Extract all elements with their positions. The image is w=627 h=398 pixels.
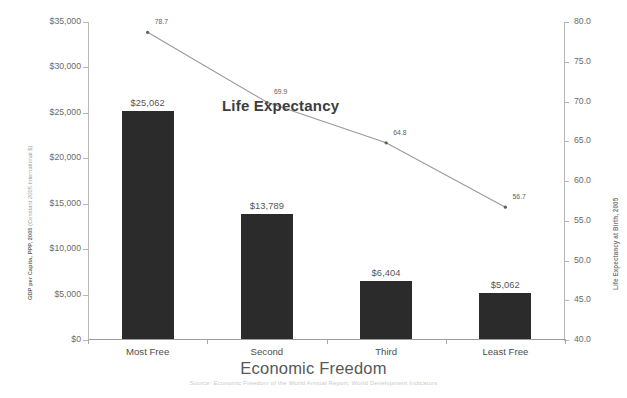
x-axis-category-label: Least Free xyxy=(450,346,560,357)
x-axis-category-label: Most Free xyxy=(93,346,203,357)
y-axis-right-tick-label: 50.0 xyxy=(574,256,591,265)
y-axis-left-tick-label: $35,000 xyxy=(33,17,81,26)
line-marker xyxy=(504,206,507,209)
y-axis-right-tick-label: 80.0 xyxy=(574,17,591,26)
y-axis-left-title: GDP per Capita, PPP, 2005 (Constant 2005… xyxy=(27,146,33,300)
life-expectancy-annotation: Life Expectancy xyxy=(222,97,339,114)
line-series xyxy=(88,22,565,340)
y-axis-right-tick-label: 65.0 xyxy=(574,136,591,145)
y-axis-left-tick-label: $30,000 xyxy=(33,62,81,71)
y-axis-right-tick-label: 70.0 xyxy=(574,97,591,106)
y-axis-right-tick-label: 45.0 xyxy=(574,295,591,304)
y-axis-left-tick-label: $25,000 xyxy=(33,108,81,117)
life-expectancy-line xyxy=(148,32,506,207)
line-marker xyxy=(146,31,149,34)
plot-area: $25,062$13,789$6,404$5,062 Most FreeSeco… xyxy=(88,22,565,340)
line-point-value-label: 56.7 xyxy=(512,193,526,200)
y-axis-left-tick-label: $5,000 xyxy=(33,290,81,299)
y-axis-left-tick-label: $0 xyxy=(33,335,81,344)
y-axis-right-title: Life Expectancy at Birth, 2005 xyxy=(612,198,619,290)
x-axis-category-label: Second xyxy=(212,346,322,357)
line-marker xyxy=(385,141,388,144)
x-axis-tickmark xyxy=(565,339,566,344)
y-axis-right-tick-label: 40.0 xyxy=(574,335,591,344)
y-axis-left-tick-label: $15,000 xyxy=(33,199,81,208)
line-point-value-label: 64.8 xyxy=(393,129,407,136)
y-axis-left-tick-label: $10,000 xyxy=(33,244,81,253)
y-axis-right-tick-label: 60.0 xyxy=(574,176,591,185)
y-axis-left-tick-label: $20,000 xyxy=(33,153,81,162)
y-axis-right-tick-label: 55.0 xyxy=(574,216,591,225)
line-point-value-label: 69.9 xyxy=(274,88,288,95)
figure-caption: Source: Economic Freedom of the World An… xyxy=(0,380,627,386)
x-axis-category-label: Third xyxy=(331,346,441,357)
line-point-value-label: 78.7 xyxy=(155,18,169,25)
y-axis-right-tick-label: 75.0 xyxy=(574,57,591,66)
economic-freedom-chart: GDP per Capita, PPP, 2005 (Constant 2005… xyxy=(0,0,627,398)
x-axis-title: Economic Freedom xyxy=(0,359,627,378)
line-markers xyxy=(146,31,507,209)
